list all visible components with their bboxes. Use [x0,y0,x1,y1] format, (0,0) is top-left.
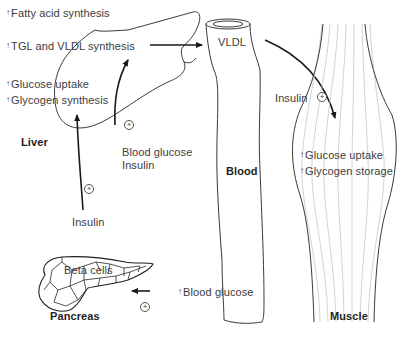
blood-glucose-text: Blood glucose [183,286,253,298]
liver-insulin-input: Insulin [72,216,105,229]
liver-effect-tgl-vldl: ↑TGL and VLDL synthesis [6,39,135,53]
liver-effect-glycogen-synthesis: ↑Glycogen synthesis [6,93,108,107]
increase-arrow-icon: ↑ [6,41,10,50]
muscle-insulin-input: Insulin [275,92,308,105]
stimulation-plus-icon: + [140,302,150,312]
arrow-glucose-to-liver [115,60,128,125]
liver-effect-text: Glucose uptake [11,78,89,90]
liver-effect-text: Fatty acid synthesis [11,7,110,19]
muscle-effect-text: Glycogen storage [305,165,393,177]
muscle-effect-glucose-uptake: ↑Glucose uptake [300,148,383,162]
increase-arrow-icon: ↑ [300,150,304,159]
stimulation-plus-icon: + [84,184,94,194]
liver-effect-text: TGL and VLDL synthesis [11,40,135,52]
liver-shape [54,12,199,128]
liver-effect-glucose-uptake: ↑Glucose uptake [6,77,89,91]
blood-label: Blood [226,165,258,178]
stimulation-plus-icon: + [317,92,327,102]
stimulation-plus-icon: + [124,120,134,130]
blood-glucose-increase: ↑Blood glucose [178,285,254,299]
muscle-effect-text: Glucose uptake [305,149,383,161]
increase-arrow-icon: ↑ [6,95,10,104]
muscle-effect-glycogen-storage: ↑Glycogen storage [300,164,393,178]
increase-arrow-icon: ↑ [300,166,304,175]
beta-cells-label: Beta cells [64,264,113,277]
liver-stimulus-insulin: Insulin [122,159,155,172]
increase-arrow-icon: ↑ [6,79,10,88]
liver-effect-text: Glycogen synthesis [11,94,108,106]
increase-arrow-icon: ↑ [6,8,10,17]
vldl-label: VLDL [218,36,246,49]
liver-stimulus-blood-glucose: Blood glucose [122,146,192,159]
liver-label: Liver [21,136,48,149]
liver-effect-fatty-acid: ↑Fatty acid synthesis [6,6,110,20]
muscle-label: Muscle [330,310,368,323]
increase-arrow-icon: ↑ [178,287,182,296]
pancreas-label: Pancreas [50,310,100,323]
arrow-insulin-to-liver [77,115,83,210]
arrow-vldl-to-muscle [265,40,335,118]
